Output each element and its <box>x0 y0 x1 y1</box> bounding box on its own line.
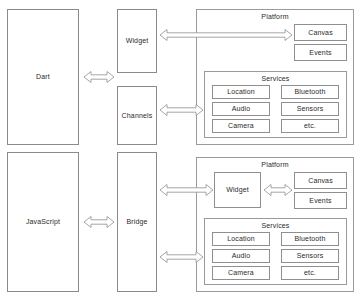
javascript-service-sensors: Sensors <box>281 249 339 263</box>
javascript-service-location-label: Location <box>227 235 255 243</box>
dart-canvas-label: Canvas <box>308 29 333 37</box>
javascript-service-bluetooth: Bluetooth <box>281 232 339 246</box>
dart-channels-label: Channels <box>122 112 153 120</box>
javascript-service-audio-label: Audio <box>232 252 251 260</box>
javascript-language-box: JavaScript <box>7 152 79 292</box>
dart-language-box: Dart <box>7 9 79 145</box>
dart-service-sensors-label: Sensors <box>297 105 324 113</box>
javascript-platform-widget-label: Widget <box>226 186 249 194</box>
dart-widget-label: Widget <box>126 37 149 45</box>
dart-service-camera-label: Camera <box>228 122 254 130</box>
connector-dart-to-middle-icon <box>84 72 114 83</box>
dart-widget-box: Widget <box>117 9 157 73</box>
javascript-events-label: Events <box>309 197 331 205</box>
dart-services-label: Services <box>261 75 289 83</box>
javascript-platform-widget-box: Widget <box>214 172 261 208</box>
javascript-platform-label: Platform <box>261 161 288 169</box>
connector-javascript-to-bridge-icon <box>84 217 114 228</box>
dart-service-camera: Camera <box>212 119 270 133</box>
javascript-service-camera: Camera <box>212 266 270 280</box>
javascript-service-sensors-label: Sensors <box>297 252 324 260</box>
dart-platform-label: Platform <box>261 13 288 21</box>
dart-events-label: Events <box>309 49 331 57</box>
javascript-bridge-label: Bridge <box>126 218 147 226</box>
dart-service-audio-label: Audio <box>232 105 251 113</box>
dart-events-box: Events <box>294 44 347 61</box>
javascript-events-box: Events <box>294 192 347 209</box>
architecture-diagram: Dart Widget Channels Platform Canvas Eve… <box>0 0 362 301</box>
javascript-bridge-box: Bridge <box>117 152 157 292</box>
javascript-services-label: Services <box>261 222 289 230</box>
dart-service-audio: Audio <box>212 102 270 116</box>
javascript-service-audio: Audio <box>212 249 270 263</box>
dart-service-etc: etc. <box>281 119 339 133</box>
dart-service-location-label: Location <box>227 88 255 96</box>
javascript-service-bluetooth-label: Bluetooth <box>295 235 326 243</box>
javascript-service-etc-label: etc. <box>304 269 316 277</box>
javascript-canvas-label: Canvas <box>308 177 333 185</box>
dart-channels-box: Channels <box>117 86 157 145</box>
dart-service-location: Location <box>212 85 270 99</box>
dart-service-bluetooth: Bluetooth <box>281 85 339 99</box>
javascript-service-camera-label: Camera <box>228 269 254 277</box>
javascript-label: JavaScript <box>26 218 60 226</box>
dart-service-bluetooth-label: Bluetooth <box>295 88 326 96</box>
javascript-service-etc: etc. <box>281 266 339 280</box>
dart-service-sensors: Sensors <box>281 102 339 116</box>
dart-label: Dart <box>36 73 50 81</box>
dart-service-etc-label: etc. <box>304 122 316 130</box>
javascript-canvas-box: Canvas <box>294 172 347 189</box>
dart-canvas-box: Canvas <box>294 24 347 41</box>
javascript-service-location: Location <box>212 232 270 246</box>
